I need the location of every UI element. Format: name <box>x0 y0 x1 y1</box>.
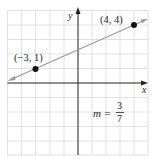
graph: (−3, 1) (4, 4) y x m = 3 7 <box>0 0 155 159</box>
x-axis-label: x <box>141 84 147 95</box>
y-axis-label: y <box>67 10 73 21</box>
line-arrow-right-icon <box>141 19 149 23</box>
point-4-4 <box>131 22 137 28</box>
slope-denominator: 7 <box>117 113 122 124</box>
point-label-neg3-1: (−3, 1) <box>14 52 43 64</box>
slope-numerator: 3 <box>117 100 122 111</box>
axes <box>8 10 146 155</box>
point-label-4-4: (4, 4) <box>100 14 123 26</box>
point-neg3-1 <box>33 66 39 72</box>
line-arrow-left-icon <box>8 76 16 81</box>
slope-prefix: m = <box>93 107 111 119</box>
